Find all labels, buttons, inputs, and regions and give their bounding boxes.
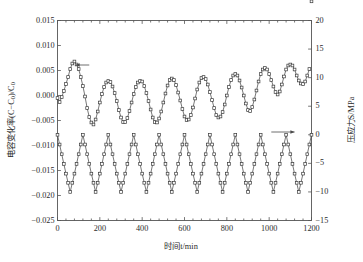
data-point-marker [215,163,218,166]
data-point-marker [173,181,176,184]
data-point-marker [287,143,290,146]
data-point-marker [101,93,104,96]
data-point-marker [164,163,167,166]
y-left-tick-label: −0.005 [31,116,54,124]
data-point-marker [209,133,212,136]
data-point-marker [134,143,137,146]
series-line-2 [58,135,312,192]
series-2 [56,133,313,193]
data-point-marker [168,181,171,184]
y-left-tick-label: −0.015 [31,166,54,174]
data-point-marker [103,153,106,156]
data-point-marker [56,97,59,100]
data-point-marker [71,181,74,184]
data-point-marker [225,94,228,97]
data-point-marker [219,115,222,118]
data-point-marker [308,143,311,146]
data-point-marker [75,163,78,166]
data-point-marker [306,153,309,156]
data-point-marker [147,100,150,103]
data-point-marker [228,163,231,166]
data-point-marker [251,106,254,109]
x-tick-label: 0 [55,225,59,233]
data-point-marker [255,153,258,156]
data-point-marker [79,76,82,79]
data-point-marker [211,99,214,102]
data-point-marker [308,68,311,71]
y-right-tick-label: 20 [316,16,324,24]
data-point-marker [278,90,281,93]
data-point-marker [181,108,184,111]
data-point-marker [58,101,61,104]
data-point-marker [63,163,66,166]
data-point-marker [175,84,178,87]
data-point-marker [183,133,186,136]
data-point-marker [196,191,199,194]
data-point-marker [94,118,97,121]
data-point-marker [206,83,209,86]
data-point-marker [130,101,133,104]
data-point-marker [160,110,163,113]
data-point-marker [300,181,303,184]
data-point-marker [289,153,292,156]
data-point-marker [297,191,300,194]
data-point-marker [98,172,101,175]
data-point-marker [297,79,300,82]
data-point-marker [245,181,248,184]
data-point-marker [253,163,256,166]
data-point-marker [156,143,159,146]
y-left-tick-label: 0.010 [36,41,54,49]
data-point-marker [128,153,131,156]
data-point-marker [240,163,243,166]
data-point-marker [84,95,87,98]
data-point-marker [276,93,279,96]
data-point-marker [113,163,116,166]
data-point-marker [209,91,212,94]
data-point-marker [295,181,298,184]
data-point-marker [73,172,76,175]
data-point-marker [213,107,216,110]
data-point-marker [149,172,152,175]
data-point-marker [69,68,72,71]
data-point-marker [261,143,264,146]
x-axis-title: 时间t/min [164,243,198,251]
x-tick-label: 400 [136,225,148,233]
data-point-marker [190,114,193,117]
data-point-marker [259,73,262,76]
data-point-marker [221,111,224,114]
y-axis-left-title: 电容变化率(C−C0)/C0 [8,82,17,158]
data-point-marker [94,191,97,194]
data-point-marker [249,181,252,184]
data-point-marker [118,109,121,112]
x-tick-label: 600 [178,225,190,233]
y-right-tick-label: 0 [316,131,320,139]
data-point-marker [236,74,239,77]
data-point-marker [179,153,182,156]
data-point-marker [240,86,243,89]
data-point-marker [304,80,307,83]
data-point-marker [213,153,216,156]
data-point-marker [130,143,133,146]
data-point-marker [204,153,207,156]
data-point-marker [194,97,197,100]
data-point-marker [293,68,296,71]
data-point-marker [118,181,121,184]
chart-figure: 020040060080010001200−0.025−0.020−0.015−… [0,0,363,262]
data-point-marker [192,172,195,175]
data-point-marker [192,106,195,109]
data-point-marker [264,153,267,156]
data-point-marker [58,143,61,146]
data-point-marker [141,172,144,175]
data-series [56,0,313,193]
data-point-marker [219,181,222,184]
data-point-marker [223,103,226,106]
y-axis-left-title-sub2: 0 [9,82,16,85]
data-point-marker [183,115,186,118]
data-point-marker [164,92,167,95]
data-point-marker [181,143,184,146]
data-point-marker [202,163,205,166]
data-point-marker [206,143,209,146]
data-point-marker [242,94,245,97]
data-point-marker [82,85,85,88]
data-point-marker [242,172,245,175]
